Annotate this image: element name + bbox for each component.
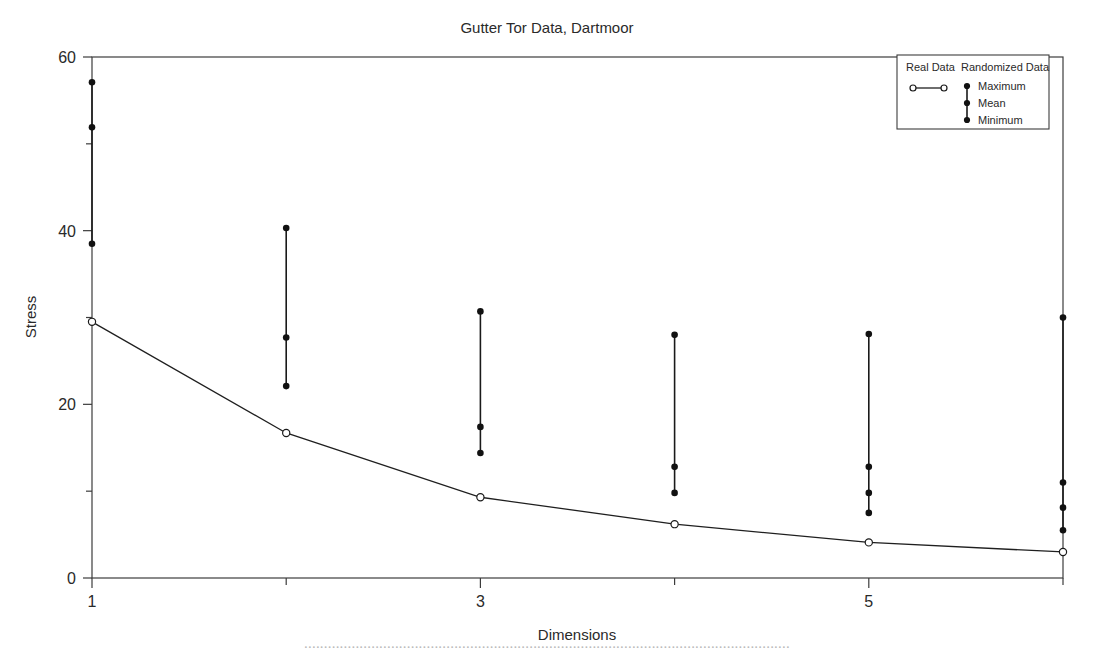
data-point-randomized <box>1060 314 1067 321</box>
data-point-real <box>671 521 678 528</box>
data-point-real <box>865 539 872 546</box>
real-data-series <box>88 318 1066 555</box>
data-point-randomized <box>866 331 873 338</box>
x-tick-label-5: 5 <box>864 593 873 610</box>
y-tick-label-40: 40 <box>58 223 76 240</box>
chart-title: Gutter Tor Data, Dartmoor <box>460 19 633 36</box>
y-tick-label-60: 60 <box>58 49 76 66</box>
legend-header-randomized-data: Randomized Data <box>961 61 1050 73</box>
data-point-real <box>88 318 95 325</box>
data-point-randomized <box>866 510 873 517</box>
plot-frame <box>92 57 1063 578</box>
data-point-randomized <box>283 334 290 341</box>
x-tick-label-1: 1 <box>88 593 97 610</box>
data-point-randomized <box>477 450 484 457</box>
data-point-randomized <box>1060 527 1067 534</box>
data-point-randomized <box>1060 504 1067 511</box>
data-point-randomized <box>477 424 484 431</box>
x-axis-tick-labels: 135 <box>88 593 874 610</box>
stress-vs-dimensions-plot: Gutter Tor Data, Dartmoor 0204060 135 St… <box>0 0 1094 665</box>
chart-legend: Real Data Randomized Data Maximum Mean M… <box>897 55 1050 129</box>
data-point-randomized <box>283 383 290 390</box>
legend-item-maximum: Maximum <box>978 80 1026 92</box>
data-point-randomized <box>89 124 96 131</box>
real-data-line <box>92 322 1063 552</box>
data-point-randomized <box>477 308 484 315</box>
legend-item-mean: Mean <box>978 97 1006 109</box>
y-axis-ticks <box>83 57 92 578</box>
x-axis-ticks <box>92 578 1063 588</box>
data-point-randomized <box>283 225 290 232</box>
page-caption-text: ........................................… <box>0 635 1094 652</box>
randomized-range-bars <box>92 82 1063 530</box>
data-point-randomized <box>1060 479 1067 486</box>
data-point-randomized <box>671 332 678 339</box>
data-point-randomized <box>89 240 96 247</box>
y-axis-tick-labels: 0204060 <box>58 49 76 587</box>
legend-header-real-data: Real Data <box>906 61 956 73</box>
chart-figure: Gutter Tor Data, Dartmoor 0204060 135 St… <box>0 0 1094 665</box>
data-point-randomized <box>89 79 96 86</box>
data-point-randomized <box>866 490 873 497</box>
y-tick-label-20: 20 <box>58 396 76 413</box>
data-point-real <box>1059 548 1066 555</box>
data-point-randomized <box>671 464 678 471</box>
data-point-randomized <box>866 464 873 471</box>
y-tick-label-0: 0 <box>67 570 76 587</box>
page-caption-strip: ........................................… <box>0 631 1094 665</box>
x-tick-label-3: 3 <box>476 593 485 610</box>
randomized-data-points <box>89 79 1067 534</box>
data-point-randomized <box>671 490 678 497</box>
y-axis-label: Stress <box>22 296 39 339</box>
data-point-real <box>283 429 290 436</box>
legend-item-minimum: Minimum <box>978 114 1023 126</box>
data-point-real <box>477 494 484 501</box>
